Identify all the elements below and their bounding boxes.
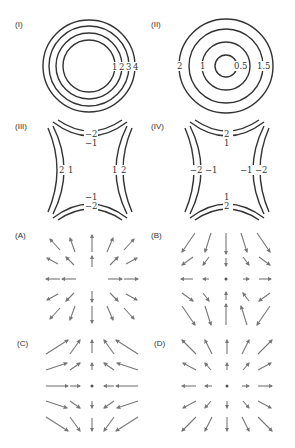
contour-level-1: 1 (200, 61, 205, 71)
contour-level: 2 (121, 165, 126, 175)
contour-level: 1 (112, 165, 117, 175)
contour-level: −2 (85, 201, 98, 211)
contour-level-2: 2 (177, 61, 182, 71)
contour-plot-IV: 2 1 1 2 −2 −1 −1 −2 (145, 112, 295, 224)
panel-IV: (IV) 2 1 1 2 −2 −1 −1 −2 (145, 112, 295, 224)
vector-field-D (145, 335, 295, 448)
contour-level-0.5: 0.5 (234, 61, 248, 71)
panel-B: (B) (145, 225, 295, 335)
panel-III: (III) −2 −1 −1 −2 2 1 1 2 (0, 112, 147, 224)
contour-level: 1 (68, 165, 73, 175)
panel-A: (A) (0, 225, 147, 335)
panel-II: (II) 2 1 0.5 1.5 (0, 0, 295, 112)
contour-level: −2 (255, 165, 268, 175)
center-point (226, 385, 229, 388)
contour-level: −1 (205, 165, 218, 175)
panel-D: (D) (145, 335, 295, 448)
vector-field-C (0, 335, 147, 448)
center-point (91, 385, 94, 388)
vector-field-A (0, 225, 147, 335)
panel-C: (C) (0, 335, 147, 448)
contour-plot-II: 2 1 0.5 1.5 (0, 0, 295, 112)
contour-level: 1 (224, 138, 229, 148)
contour-level-1.5: 1.5 (257, 61, 271, 71)
contour-plot-III: −2 −1 −1 −2 2 1 1 2 (0, 112, 147, 224)
contour-level: −2 (190, 165, 203, 175)
contour-level: 2 (224, 201, 229, 211)
vector-field-B (145, 225, 295, 335)
contour-level: −1 (240, 165, 253, 175)
contour-level: 2 (59, 165, 64, 175)
contour-level: −1 (85, 138, 98, 148)
center-point (225, 278, 228, 281)
